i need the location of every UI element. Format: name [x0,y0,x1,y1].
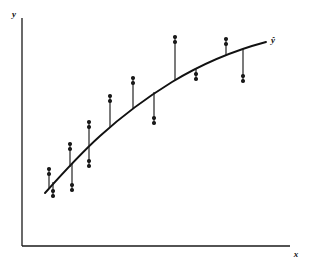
observation-dot [132,77,135,80]
observation-dot [174,36,177,39]
observation-dot [52,190,55,193]
observation-dot [109,100,112,103]
observation-dot [48,173,51,176]
observation-dot [242,75,245,78]
observation-dot [109,95,112,98]
observation-dot [71,184,74,187]
observation-dot [48,168,51,171]
x-axis-label: x [293,249,299,259]
observation-dot [174,41,177,44]
observation-dot [242,80,245,83]
observation-dot [132,82,135,85]
observation-dot [195,78,198,81]
observation-dot [153,122,156,125]
observation-dot [88,121,91,124]
observation-dot [225,43,228,46]
observation-dot [88,165,91,168]
observation-dot [71,189,74,192]
plot-background [0,0,317,263]
observation-dot [225,38,228,41]
regression-residual-figure: y x ŷ [0,0,317,263]
observation-dot [88,160,91,163]
observation-dot [195,73,198,76]
observation-dot [88,126,91,129]
observation-dot [69,143,72,146]
chart-canvas: y x ŷ [0,0,317,263]
observation-dot [52,195,55,198]
observation-dot [153,117,156,120]
observation-dot [69,148,72,151]
